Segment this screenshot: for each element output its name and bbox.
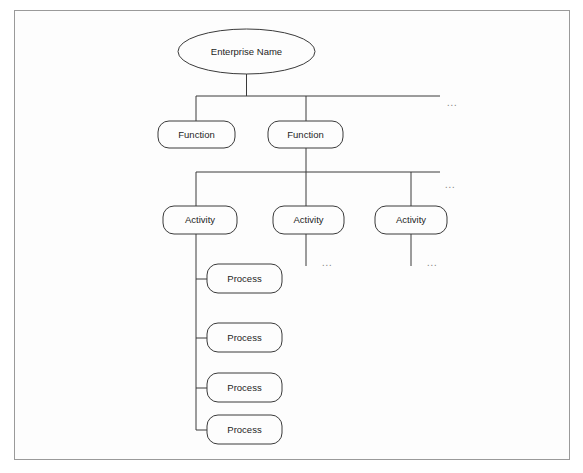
hierarchy-diagram: Enterprise Name Function Function ... Ac… bbox=[0, 0, 583, 473]
function-level-ellipsis: ... bbox=[447, 96, 458, 108]
process-3-label: Process bbox=[227, 382, 262, 393]
node-activity-3[interactable]: Activity bbox=[375, 206, 447, 234]
function-2-label: Function bbox=[287, 129, 323, 140]
node-function-1[interactable]: Function bbox=[158, 121, 235, 148]
activity-3-label: Activity bbox=[396, 214, 426, 225]
process-4-label: Process bbox=[227, 424, 262, 435]
node-process-2[interactable]: Process bbox=[207, 323, 282, 352]
activity-level-ellipsis: ... bbox=[445, 178, 456, 190]
node-enterprise[interactable]: Enterprise Name bbox=[178, 29, 315, 74]
enterprise-label: Enterprise Name bbox=[211, 46, 282, 57]
activity-2-children-ellipsis: ... bbox=[322, 256, 333, 268]
activity-2-label: Activity bbox=[293, 214, 323, 225]
node-process-1[interactable]: Process bbox=[207, 264, 282, 293]
node-function-2[interactable]: Function bbox=[268, 121, 343, 148]
process-1-label: Process bbox=[227, 273, 262, 284]
node-process-3[interactable]: Process bbox=[207, 373, 282, 402]
node-activity-2[interactable]: Activity bbox=[273, 206, 344, 234]
node-activity-1[interactable]: Activity bbox=[163, 206, 237, 234]
activity-3-children-ellipsis: ... bbox=[427, 256, 438, 268]
activity-1-label: Activity bbox=[185, 214, 215, 225]
diagram-canvas: Enterprise Name Function Function ... Ac… bbox=[0, 0, 583, 473]
process-2-label: Process bbox=[227, 332, 262, 343]
function-1-label: Function bbox=[178, 129, 214, 140]
node-process-4[interactable]: Process bbox=[207, 415, 282, 444]
